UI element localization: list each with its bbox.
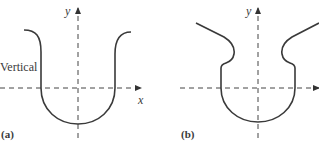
panel-b-label: (b) [181, 128, 194, 140]
panel-b-y-label: y [246, 4, 251, 19]
panel-a-x-label: x [138, 93, 143, 108]
panel-a-y-label: y [65, 4, 70, 19]
panel-b [180, 8, 319, 138]
panel-a-label: (a) [1, 128, 14, 140]
panel-a-annotation: Vertical [0, 60, 37, 75]
figure-canvas [0, 0, 319, 142]
